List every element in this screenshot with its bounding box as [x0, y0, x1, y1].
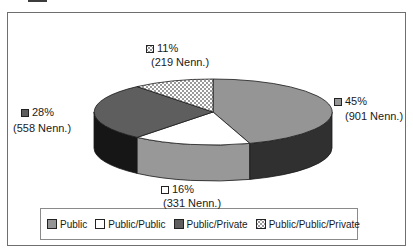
- pct-value: 28%: [32, 106, 54, 119]
- label-key-gray-icon: [334, 98, 342, 106]
- data-label-public-public: 16% (331 Nenn.): [161, 183, 221, 210]
- legend-label: Public/Public/Private: [269, 219, 360, 230]
- label-key-dotted-icon: [146, 45, 154, 53]
- legend-item-public-public-private: Public/Public/Private: [256, 219, 360, 230]
- count-value: (219 Nenn.): [151, 56, 209, 69]
- legend-swatch-gray-icon: [47, 219, 57, 229]
- data-label-public-private: 28% (558 Nenn.): [21, 106, 71, 135]
- scan-artifact-mark: [28, 0, 47, 2]
- label-key-white-icon: [161, 186, 169, 194]
- pct-value: 16%: [172, 183, 194, 196]
- legend-item-public: Public: [47, 219, 87, 230]
- data-label-public: 45% (901 Nenn.): [334, 95, 403, 123]
- legend: Public Public/Public Public/Private Publ…: [40, 208, 358, 240]
- pie-chart-figure: 11% (219 Nenn.) 45% (901 Nenn.) 28% (558…: [0, 0, 413, 251]
- pct-value: 45%: [345, 95, 367, 108]
- legend-item-public-public: Public/Public: [95, 219, 165, 230]
- count-value: (558 Nenn.): [13, 122, 71, 135]
- pct-value: 11%: [157, 42, 178, 55]
- legend-swatch-white-icon: [95, 219, 105, 229]
- legend-label: Public: [60, 219, 87, 230]
- count-value: (901 Nenn.): [345, 110, 403, 123]
- legend-swatch-darkgray-icon: [174, 219, 184, 229]
- legend-swatch-dotted-icon: [256, 219, 266, 229]
- legend-item-public-private: Public/Private: [174, 219, 248, 230]
- count-value: (331 Nenn.): [163, 197, 221, 210]
- legend-label: Public/Public: [108, 219, 165, 230]
- legend-label: Public/Private: [187, 219, 248, 230]
- data-label-public-public-private: 11% (219 Nenn.): [146, 42, 209, 69]
- label-key-darkgray-icon: [21, 109, 29, 117]
